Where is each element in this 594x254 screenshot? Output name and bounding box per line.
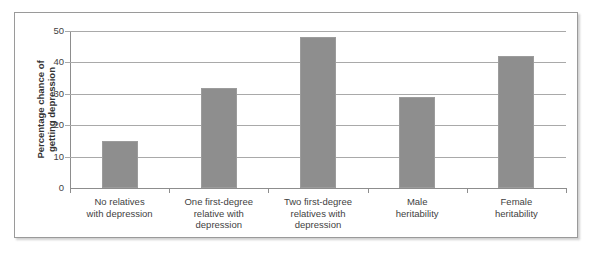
- x-axis-category-label: Maleheritability: [368, 196, 467, 219]
- bar[interactable]: [399, 97, 435, 188]
- category-label-line: Two first-degree: [268, 196, 367, 208]
- y-tick-mark-50: [65, 31, 70, 32]
- y-tick-label-20: 20: [53, 120, 64, 130]
- bar[interactable]: [102, 141, 138, 188]
- y-tick-label-50: 50: [53, 26, 64, 36]
- category-label-line: Female: [467, 196, 566, 208]
- x-tick-mark: [467, 188, 468, 193]
- category-label-line: heritability: [467, 208, 566, 220]
- bar[interactable]: [300, 37, 336, 188]
- bar[interactable]: [201, 88, 237, 188]
- y-tick-mark-30: [65, 94, 70, 95]
- x-axis-category-label: Two first-degreerelatives withdepression: [268, 196, 367, 231]
- x-tick-mark: [368, 188, 369, 193]
- x-tick-mark: [169, 188, 170, 193]
- x-axis-line: [70, 188, 567, 189]
- category-label-line: depression: [169, 219, 268, 231]
- category-label-line: relatives with: [268, 208, 367, 220]
- bar-chart: Percentage chance of getting depression …: [15, 13, 577, 237]
- y-tick-label-10: 10: [53, 152, 64, 162]
- category-label-line: with depression: [70, 208, 169, 220]
- bar[interactable]: [498, 56, 534, 188]
- x-axis-category-label: One first-degreerelative withdepression: [169, 196, 268, 231]
- x-tick-mark: [566, 188, 567, 193]
- chart-figure-frame: Percentage chance of getting depression …: [14, 12, 578, 238]
- y-axis-title-line-1: Percentage chance of: [35, 60, 47, 158]
- category-label-line: relative with: [169, 208, 268, 220]
- y-tick-label-30: 30: [53, 89, 64, 99]
- y-tick-mark-20: [65, 125, 70, 126]
- x-axis-category-label: No relativeswith depression: [70, 196, 169, 219]
- category-label-line: One first-degree: [169, 196, 268, 208]
- y-tick-label-0: 0: [59, 183, 64, 193]
- y-tick-label-40: 40: [53, 58, 64, 68]
- gridline-50: [70, 31, 566, 32]
- plot-area: 01020304050: [70, 31, 566, 188]
- y-tick-mark-40: [65, 62, 70, 63]
- x-tick-mark: [268, 188, 269, 193]
- y-axis-title-line-2: getting depression: [46, 60, 58, 158]
- x-tick-mark: [70, 188, 71, 193]
- y-tick-mark-10: [65, 157, 70, 158]
- category-label-line: No relatives: [70, 196, 169, 208]
- x-axis-category-label: Femaleheritability: [467, 196, 566, 219]
- category-label-line: heritability: [368, 208, 467, 220]
- y-axis-title: Percentage chance of getting depression: [33, 31, 59, 188]
- category-label-line: Male: [368, 196, 467, 208]
- category-label-line: depression: [268, 219, 367, 231]
